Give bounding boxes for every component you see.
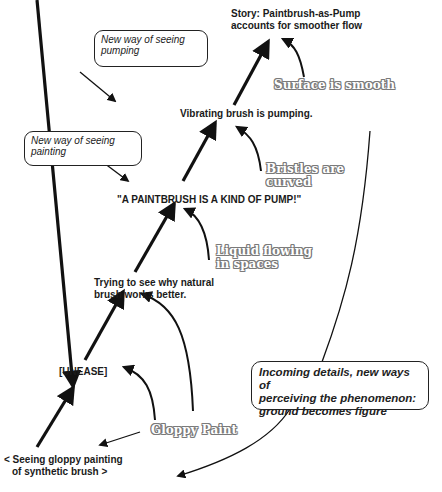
node-unease: [UNEASE]	[59, 366, 107, 378]
arrow-seeing-to-unease	[37, 0, 73, 386]
node-seeing: < Seeing gloppy painting of synthetic br…	[4, 454, 123, 478]
node-trying: Trying to see why natural brush works be…	[94, 277, 214, 301]
detail-gloppy: Gloppy Paint	[151, 424, 237, 437]
main-progression-arrows	[37, 0, 268, 447]
detail-surface: Surface is smooth	[274, 79, 395, 92]
node-vibrating: Vibrating brush is pumping.	[180, 108, 313, 120]
callout-painting: New way of seeing painting	[24, 131, 142, 166]
callout-pumping: New way of seeing pumping	[94, 30, 208, 67]
node-story: Story: Paintbrush-as-Pump accounts for s…	[231, 8, 362, 32]
node-pump: "A PAINTBRUSH IS A KIND OF PUMP!"	[117, 194, 301, 206]
detail-bristles: Bristles are curved	[266, 163, 344, 189]
detail-liquid: Liquid flowing in spaces	[216, 245, 312, 271]
callout-incoming: Incoming details, new ways of perceiving…	[251, 361, 429, 410]
